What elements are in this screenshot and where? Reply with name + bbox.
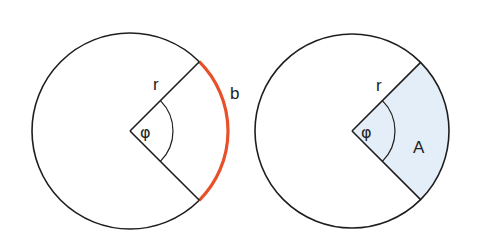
arc-b-highlight xyxy=(199,62,228,201)
left-angle-marker xyxy=(160,101,173,162)
left-angle-label: φ xyxy=(140,123,151,142)
right-angle-label: φ xyxy=(361,123,372,142)
arc-length-figure: r φ b xyxy=(32,33,239,229)
sector-area-figure: r φ A xyxy=(255,34,449,228)
left-upper-radius xyxy=(130,62,199,131)
arc-length-label: b xyxy=(230,84,239,103)
left-radius-label: r xyxy=(153,75,159,94)
sector-area-label: A xyxy=(413,138,425,157)
right-radius-label: r xyxy=(376,76,382,95)
diagram-canvas: r φ b r φ A xyxy=(0,0,479,240)
